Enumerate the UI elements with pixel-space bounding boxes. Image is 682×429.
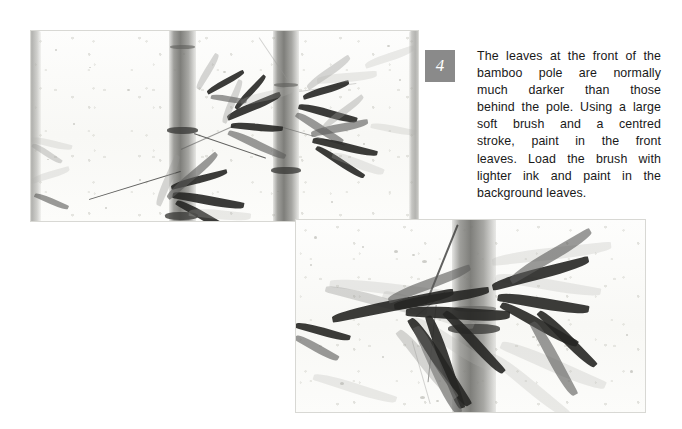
caption-word: pole. xyxy=(546,99,573,116)
caption-word: Using xyxy=(580,99,612,116)
caption-line: The leaves at the front of the xyxy=(477,48,661,65)
figure-bamboo-painting-detail xyxy=(295,219,646,413)
caption-word: paint xyxy=(531,133,558,150)
caption-word: soft xyxy=(477,116,497,133)
figure-bamboo-painting-wide xyxy=(30,30,419,222)
paper-speck xyxy=(399,79,401,81)
caption-word: with xyxy=(639,151,661,168)
caption-line: background leaves. xyxy=(477,185,661,202)
paper-speck xyxy=(310,264,312,266)
caption-word: ink xyxy=(523,168,539,185)
step-number-badge: 4 xyxy=(425,50,455,82)
caption-word: in xyxy=(622,168,632,185)
paper-speck xyxy=(331,201,333,203)
caption-word: the xyxy=(643,48,661,65)
paper-speck xyxy=(363,143,365,145)
caption-word: than xyxy=(585,82,610,99)
paper-speck xyxy=(532,336,535,338)
caption-word: brush xyxy=(513,116,545,133)
paper-speck xyxy=(422,260,427,263)
paper-speck xyxy=(89,67,91,68)
bamboo-culm xyxy=(409,31,419,222)
caption-word: paint xyxy=(583,168,610,185)
caption-word: much xyxy=(477,82,508,99)
caption-word: The xyxy=(477,48,499,65)
caption-line: soft brush and a centred xyxy=(477,116,661,133)
caption-word: of xyxy=(625,48,636,65)
caption-word: a xyxy=(619,99,626,116)
paper-speck xyxy=(314,236,317,239)
caption-word: the xyxy=(568,48,586,65)
paper-speck xyxy=(55,49,57,51)
caption-word: stroke, xyxy=(477,133,515,150)
caption-word: large xyxy=(633,99,661,116)
paper-speck xyxy=(436,400,439,402)
caption-line: lighter ink and paint in the xyxy=(477,168,661,185)
caption-word: behind xyxy=(477,99,515,116)
caption-word: pole xyxy=(539,65,563,82)
caption-line: much darker than those xyxy=(477,82,661,99)
caption-word: Load xyxy=(528,151,556,168)
paper-speck xyxy=(630,370,633,373)
caption-line: stroke, paint in the front xyxy=(477,133,661,150)
caption-word: lighter xyxy=(477,168,511,185)
caption-word: the xyxy=(602,133,620,150)
paper-speck xyxy=(420,396,425,399)
caption-word: the xyxy=(522,99,540,116)
caption-line: leaves. Load the brush with xyxy=(477,151,661,168)
caption-word: and xyxy=(560,116,581,133)
caption-line: bamboo pole are normally xyxy=(477,65,661,82)
caption-word: normally xyxy=(613,65,661,82)
caption-word: those xyxy=(630,82,661,99)
caption-word: front xyxy=(593,48,618,65)
caption-word: in xyxy=(575,133,585,150)
caption-word: and xyxy=(551,168,572,185)
caption-word: the xyxy=(567,151,585,168)
paper-speck xyxy=(105,207,107,209)
paper-speck xyxy=(382,356,384,358)
paper-speck xyxy=(626,334,628,336)
step-number-label: 4 xyxy=(425,50,455,82)
paper-speck xyxy=(412,254,415,256)
caption-word: front xyxy=(636,133,661,150)
caption-word: at xyxy=(550,48,561,65)
paper-speck xyxy=(394,250,398,253)
paper-speck xyxy=(223,71,226,73)
bamboo-node xyxy=(271,167,301,174)
caption-word: bamboo xyxy=(477,65,522,82)
paper-speck xyxy=(387,45,390,47)
caption-word: are xyxy=(579,65,597,82)
paper-speck xyxy=(362,246,364,248)
caption-word: centred xyxy=(619,116,661,133)
paper-speck xyxy=(47,159,49,160)
caption-word: a xyxy=(596,116,603,133)
paper-speck xyxy=(73,123,75,125)
caption-word: leaves. xyxy=(477,151,517,168)
step-caption: The leaves at the front of the bamboo po… xyxy=(477,48,661,202)
caption-word: the xyxy=(643,168,661,185)
caption-word: darker xyxy=(528,82,564,99)
paper-speck xyxy=(139,179,141,181)
caption-word: leaves xyxy=(506,48,542,65)
caption-line: behind the pole. Using a large xyxy=(477,99,661,116)
paper-speck xyxy=(127,89,130,91)
page-root: 4 The leaves at the front of the bamboo … xyxy=(0,0,682,429)
bamboo-node xyxy=(170,45,195,49)
caption-word: brush xyxy=(596,151,628,168)
